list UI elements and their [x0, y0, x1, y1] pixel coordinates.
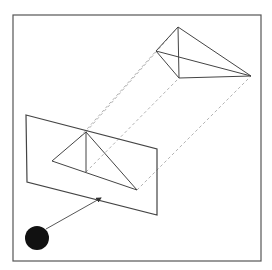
perspective-projection-diagram	[0, 0, 272, 270]
viewer-eye-point	[25, 226, 49, 250]
projection-line-3	[137, 76, 251, 190]
edge-0	[156, 27, 178, 51]
edge-1	[178, 27, 179, 78]
view-direction-arrow	[46, 198, 101, 229]
outer-frame	[13, 15, 261, 261]
edge-5	[156, 51, 251, 76]
3d-pyramid-object	[156, 27, 251, 78]
projection-line-1	[80, 51, 156, 137]
projection-line-2	[86, 78, 179, 172]
edge-2	[178, 27, 251, 76]
front-edge-0	[52, 132, 86, 161]
edge-3	[156, 51, 179, 78]
projection-lines	[80, 27, 251, 190]
edge-4	[179, 76, 251, 78]
projection-plane	[26, 115, 157, 215]
